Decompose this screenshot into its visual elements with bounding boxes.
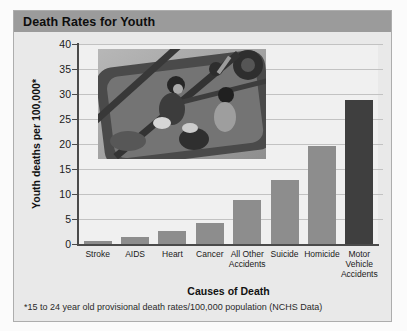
bar-suicide (271, 180, 299, 244)
y-tick-label: 20 (43, 138, 71, 150)
bar-slot (266, 44, 303, 244)
y-tick-label: 5 (43, 213, 71, 225)
bar-cancer (196, 223, 224, 245)
y-tick-label: 30 (43, 88, 71, 100)
x-axis-label-cancer: Cancer (191, 249, 228, 280)
x-axis-label-aids: AIDS (116, 249, 153, 280)
bar-slot (341, 44, 378, 244)
youth-in-car-photo (98, 49, 266, 159)
y-tick-label: 40 (43, 38, 71, 50)
bar-slot (303, 44, 340, 244)
y-tick-label: 15 (43, 163, 71, 175)
x-axis-label-suicide: Suicide (266, 249, 303, 280)
bar-motor-vehicle-accidents (345, 100, 373, 245)
x-axis-label-heart: Heart (154, 249, 191, 280)
bar-aids (121, 237, 149, 245)
chart-title: Death Rates for Youth (23, 15, 155, 29)
x-axis-label-all-other-accidents: All Other Accidents (229, 249, 266, 280)
bar-homicide (308, 146, 336, 245)
x-axis-label-homicide: Homicide (303, 249, 340, 280)
footnote: *15 to 24 year old provisional death rat… (24, 302, 384, 312)
y-tick-label: 0 (43, 238, 71, 250)
bar-all-other-accidents (233, 200, 261, 244)
x-axis-title: Causes of Death (79, 285, 378, 297)
chart-title-bar: Death Rates for Youth (14, 11, 391, 32)
bar-heart (158, 231, 186, 245)
y-axis-title: Youth deaths per 100,000* (30, 59, 44, 229)
y-tick-label: 25 (43, 113, 71, 125)
x-axis-label-motor-vehicle-accidents: Motor Vehicle Accidents (341, 249, 378, 280)
x-axis-line (77, 244, 379, 246)
x-axis-labels: StrokeAIDSHeartCancerAll Other Accidents… (79, 249, 378, 280)
y-tick-label: 35 (43, 63, 71, 75)
y-tick-label: 10 (43, 188, 71, 200)
chart-panel: Death Rates for Youth Youth deaths per 1… (13, 10, 392, 322)
x-axis-label-stroke: Stroke (79, 249, 116, 280)
